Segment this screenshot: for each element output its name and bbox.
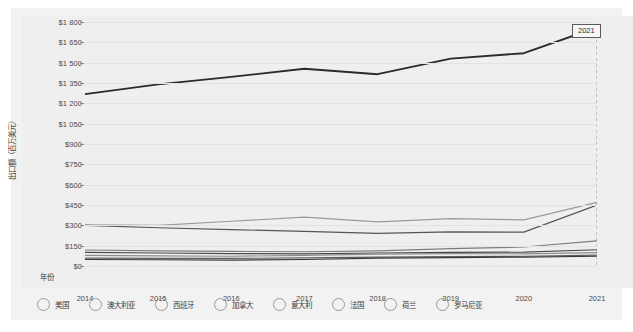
legend-item-label: 加拿大 — [232, 299, 253, 310]
legend-item-label: 法国 — [350, 299, 364, 310]
y-axis-tick-label: $1 650 — [58, 38, 82, 47]
y-axis-tick-mark — [80, 205, 84, 206]
gridline — [85, 225, 597, 226]
gridline — [85, 185, 597, 186]
gridline — [85, 83, 597, 84]
gridline — [85, 124, 597, 125]
x-axis-title: 年份 — [40, 271, 54, 282]
y-axis-tick-mark — [80, 185, 84, 186]
chart-legend: 美国澳大利亚西班牙加拿大意大利法国荷兰罗马尼亚 — [11, 288, 622, 320]
y-axis-tick-label: $1 050 — [58, 119, 82, 128]
gridline — [85, 63, 597, 64]
legend-item-7[interactable]: 罗马尼亚 — [436, 298, 482, 311]
y-axis-tick-mark — [80, 164, 84, 165]
legend-item-1[interactable]: 澳大利亚 — [89, 298, 135, 311]
y-axis-title: 出口额（百万美元） — [6, 117, 17, 180]
legend-item-3[interactable]: 加拿大 — [214, 298, 253, 311]
legend-item-label: 澳大利亚 — [107, 299, 135, 310]
y-axis-tick-label: $1 800 — [58, 18, 82, 27]
legend-item-0[interactable]: 美国 — [37, 298, 69, 311]
legend-item-4[interactable]: 意大利 — [273, 298, 312, 311]
gridline — [85, 266, 597, 267]
legend-item-5[interactable]: 法国 — [332, 298, 364, 311]
gridline — [85, 144, 597, 145]
gridline — [85, 246, 597, 247]
legend-item-label: 罗马尼亚 — [454, 299, 482, 310]
y-axis-tick-mark — [80, 63, 84, 64]
y-axis-tick-mark — [80, 83, 84, 84]
legend-circle-icon — [436, 298, 449, 311]
legend-circle-icon — [89, 298, 102, 311]
y-axis-tick-mark — [80, 103, 84, 104]
chart-root: 出口额（百万美元） $1 800$1 650$1 500$1 350$1 200… — [0, 0, 633, 332]
y-axis-tick-label: $1 200 — [58, 99, 82, 108]
y-axis-tick-mark — [80, 42, 84, 43]
legend-item-label: 荷兰 — [402, 299, 416, 310]
annotation-2021-box[interactable]: 2021 — [572, 24, 601, 38]
legend-circle-icon — [155, 298, 168, 311]
y-axis-tick-label: $1 500 — [58, 58, 82, 67]
legend-item-2[interactable]: 西班牙 — [155, 298, 194, 311]
gridline — [85, 164, 597, 165]
y-axis-tick-mark — [80, 225, 84, 226]
legend-circle-icon — [214, 298, 227, 311]
y-axis-tick-mark — [80, 124, 84, 125]
y-axis-tick-labels: $1 800$1 650$1 500$1 350$1 200$1 050$900… — [26, 22, 82, 266]
legend-circle-icon — [332, 298, 345, 311]
gridline — [85, 42, 597, 43]
plot-area: 20142015201620172018201920202021 — [85, 22, 597, 266]
gridline — [85, 103, 597, 104]
gridline — [85, 22, 597, 23]
legend-circle-icon — [384, 298, 397, 311]
y-axis-tick-mark — [80, 22, 84, 23]
y-axis-tick-mark — [80, 266, 84, 267]
y-axis-tick-mark — [80, 246, 84, 247]
legend-item-6[interactable]: 荷兰 — [384, 298, 416, 311]
y-axis-tick-mark — [80, 144, 84, 145]
legend-circle-icon — [273, 298, 286, 311]
y-axis-tick-label: $1 350 — [58, 79, 82, 88]
legend-item-label: 美国 — [55, 299, 69, 310]
legend-item-label: 西班牙 — [173, 299, 194, 310]
gridline — [85, 205, 597, 206]
series-line-0[interactable] — [85, 27, 597, 94]
legend-circle-icon — [37, 298, 50, 311]
legend-item-label: 意大利 — [291, 299, 312, 310]
